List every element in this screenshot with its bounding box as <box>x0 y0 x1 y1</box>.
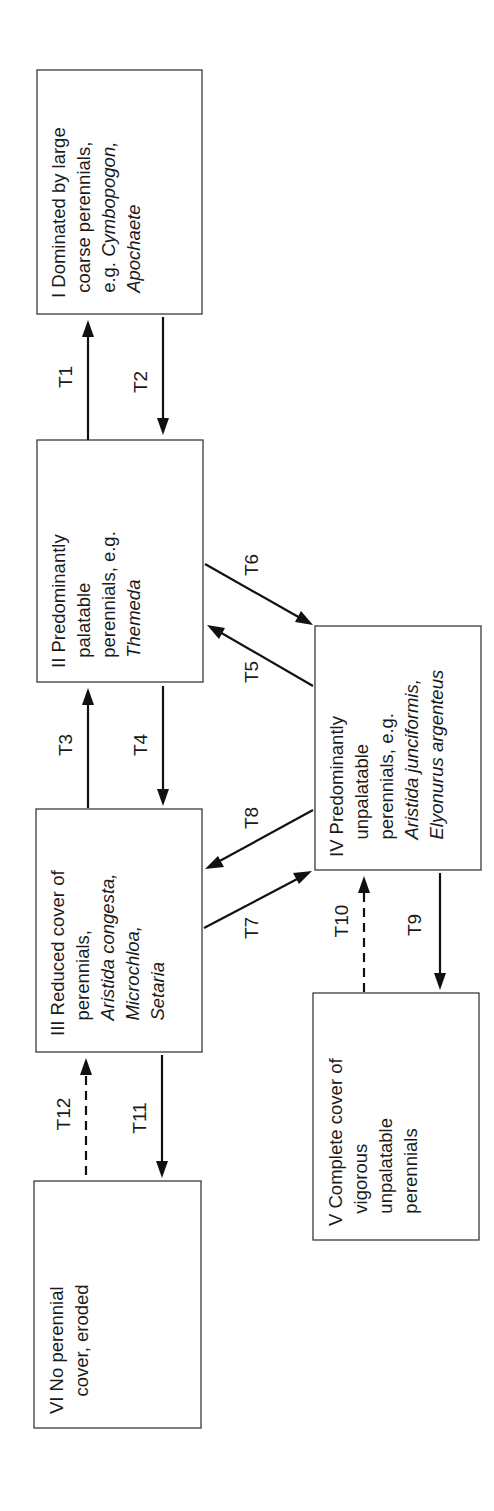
state-numeral: VI <box>46 1391 67 1414</box>
state-text-line: Themeda <box>123 580 144 658</box>
transition-label-T11: T11 <box>129 1102 150 1133</box>
state-text-line: V Complete cover of <box>325 1058 346 1226</box>
state-text-line: perennials, <box>72 930 93 1021</box>
state-text-line: perennials <box>400 1128 421 1213</box>
transition-T9: T9 <box>404 873 446 990</box>
transition-T1: T1 <box>55 320 94 440</box>
state-numeral: II <box>48 653 69 668</box>
state-numeral: V <box>325 1209 346 1226</box>
transition-label-T3: T3 <box>55 734 76 756</box>
transition-T8: T8 <box>205 807 313 869</box>
state-text-line: unpalatable <box>351 744 372 840</box>
state-text-line: Setaria <box>147 962 168 1021</box>
arrowhead-icon <box>205 856 224 869</box>
transition-T4: T4 <box>130 686 169 806</box>
state-box-IV: IV Predominantlyunpalatableperennials, e… <box>315 626 481 870</box>
arrowhead-icon <box>207 625 225 639</box>
transition-T7: T7 <box>204 871 312 939</box>
transition-label-T5: T5 <box>241 661 262 683</box>
arrowhead-icon <box>80 1058 92 1075</box>
arrowhead-icon <box>82 688 94 705</box>
state-text-line: Apochaete <box>123 204 144 293</box>
transition-label-T4: T4 <box>130 733 151 756</box>
transition-label-T12: T12 <box>53 1098 74 1131</box>
transition-label-T10: T10 <box>331 905 352 938</box>
state-text-line: IV Predominantly <box>326 715 347 857</box>
state-text-line: I Dominated by large <box>48 127 69 298</box>
transition-T3: T3 <box>55 688 94 808</box>
state-text-line: Elyonurus argenteus <box>426 670 447 840</box>
transition-T11: T11 <box>129 1055 168 1178</box>
arrowhead-icon <box>293 871 312 884</box>
state-box-I: I Dominated by largecoarse perennials,e.… <box>37 70 202 314</box>
state-transition-diagram: I Dominated by largecoarse perennials,e.… <box>0 0 494 1511</box>
transition-T12: T12 <box>53 1058 92 1175</box>
state-text-line: II Predominantly <box>48 534 69 668</box>
arrowhead-icon <box>295 611 313 625</box>
arrowhead-icon <box>434 973 446 990</box>
state-text-line: perennials, e.g. <box>98 531 119 658</box>
transition-label-T2: T2 <box>130 371 151 393</box>
transition-T10: T10 <box>331 876 370 992</box>
state-box-III: III Reduced cover ofperennials,Aristida … <box>36 809 202 1052</box>
arrowhead-icon <box>82 320 94 337</box>
state-text-line: Aristida congesta, <box>97 874 118 1022</box>
state-text-line: e.g. Cymbopogon, <box>98 142 119 293</box>
transition-T2: T2 <box>130 317 169 435</box>
state-text-line: III Reduced cover of <box>47 870 68 1036</box>
transition-label-T9: T9 <box>404 914 425 936</box>
transition-label-T7: T7 <box>241 917 262 939</box>
state-text-line: Aristida junciformis, <box>401 679 422 840</box>
state-box-II: II Predominantlypalatableperennials, e.g… <box>37 440 203 682</box>
arrowhead-icon <box>358 876 370 893</box>
transition-T5: T5 <box>207 625 313 686</box>
arrowhead-icon <box>157 418 169 435</box>
transition-label-T8: T8 <box>241 807 262 829</box>
state-numeral: IV <box>326 834 347 857</box>
state-box-VI: VI No perennialcover, eroded <box>34 1181 201 1428</box>
state-text-line: unpalatable <box>375 1118 396 1214</box>
state-numeral: I <box>48 288 69 298</box>
arrowhead-icon <box>156 1161 168 1178</box>
transition-T6: T6 <box>205 554 313 625</box>
transition-label-T6: T6 <box>241 554 262 576</box>
arrowhead-icon <box>157 789 169 806</box>
state-text-line: Microchloa, <box>122 926 143 1021</box>
state-text-line: palatable <box>73 583 94 658</box>
state-text-line: VI No perennial <box>46 1286 67 1414</box>
state-numeral: III <box>47 1015 68 1036</box>
state-text-line: vigorous <box>350 1144 371 1214</box>
transition-label-T1: T1 <box>55 366 76 388</box>
state-text-line: coarse perennials, <box>73 142 94 293</box>
state-text-line: perennials, e.g. <box>376 713 397 840</box>
state-text-line: cover, eroded <box>71 1284 92 1396</box>
state-box-V: V Complete cover ofvigorousunpalatablepe… <box>313 993 479 1240</box>
